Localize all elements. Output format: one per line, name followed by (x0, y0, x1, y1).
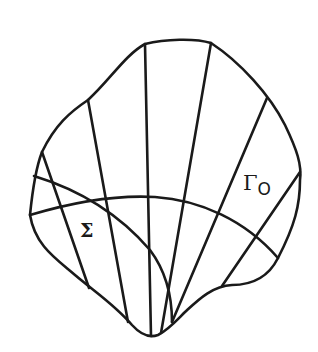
gamma-zero-label: ΓO (243, 171, 271, 199)
sigma-label: Σ (80, 219, 93, 241)
fan-line-3 (145, 44, 151, 336)
gamma-symbol: Γ (243, 171, 258, 195)
gamma-subscript: O (258, 179, 271, 199)
diagram-figure: Σ ΓO (0, 0, 318, 352)
